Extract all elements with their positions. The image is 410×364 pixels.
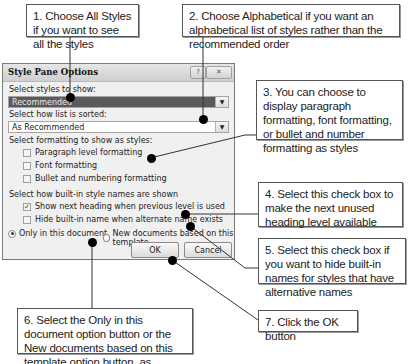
close-button[interactable]: ✕	[206, 66, 232, 79]
callout-5-marker	[186, 222, 195, 231]
checkbox-label: Paragraph level formatting	[35, 148, 142, 157]
callout-4-marker	[181, 210, 190, 219]
cancel-button[interactable]: Cancel	[184, 242, 232, 258]
checkbox-box[interactable]	[23, 149, 31, 157]
styles-to-show-value: Recommended	[12, 98, 72, 107]
checkmark-icon[interactable]: ✓	[23, 203, 31, 211]
checkbox-label: Show next heading when previous level is…	[35, 202, 225, 211]
callout-3-marker	[147, 154, 156, 163]
callout-3: 3. You can choose to display paragraph f…	[256, 80, 403, 140]
bullet-numbering-checkbox[interactable]: Bullet and numbering formatting	[23, 174, 167, 183]
checkbox-box[interactable]	[23, 175, 31, 183]
style-pane-options-dialog: Style Pane Options ? ✕ Select styles to …	[2, 63, 235, 260]
checkbox-label: Bullet and numbering formatting	[35, 174, 167, 183]
radio-label: Only in this document	[19, 229, 107, 238]
formatting-label: Select formatting to show as styles:	[9, 136, 152, 145]
callout-6-marker	[88, 238, 97, 247]
callout-7: 7. Click the OK button	[258, 310, 358, 332]
callout-6: 6. Select the Only in this document opti…	[17, 308, 193, 354]
radio-unselected-icon[interactable]	[103, 234, 110, 242]
callout-2: 2. Choose Alphabetical if you want an al…	[182, 4, 400, 37]
checkbox-box[interactable]	[23, 216, 31, 224]
help-icon: ?	[196, 68, 200, 76]
show-next-heading-checkbox[interactable]: ✓ Show next heading when previous level …	[23, 202, 225, 211]
callout-5: 5. Select this check box if you want to …	[258, 238, 406, 284]
paragraph-formatting-checkbox[interactable]: Paragraph level formatting	[23, 148, 142, 157]
callout-1-marker	[66, 93, 75, 102]
callout-2-marker	[199, 115, 208, 124]
checkbox-label: Hide built-in name when alternate name e…	[35, 215, 223, 224]
font-formatting-checkbox[interactable]: Font formatting	[23, 161, 97, 170]
help-button[interactable]: ?	[190, 66, 206, 79]
styles-to-show-dropdown[interactable]: Recommended ▼	[8, 96, 229, 108]
builtin-label: Select how built-in style names are show…	[9, 190, 178, 199]
chevron-down-icon[interactable]: ▼	[215, 122, 228, 132]
chevron-down-icon[interactable]: ▼	[215, 97, 228, 107]
radio-selected-icon[interactable]	[8, 230, 16, 238]
sort-dropdown[interactable]: As Recommended ▼	[8, 121, 229, 133]
sort-label: Select how list is sorted:	[9, 110, 107, 119]
dialog-title: Style Pane Options	[8, 67, 98, 77]
sort-value: As Recommended	[12, 123, 84, 132]
callout-1: 1. Choose All Styles if you want to see …	[26, 4, 139, 37]
only-in-this-document-radio[interactable]: Only in this document	[8, 229, 107, 238]
callout-4: 4. Select this check box to make the nex…	[258, 182, 403, 227]
checkbox-box[interactable]	[23, 162, 31, 170]
title-bar: Style Pane Options ? ✕	[3, 64, 234, 82]
checkbox-label: Font formatting	[35, 161, 97, 170]
styles-to-show-label: Select styles to show:	[9, 85, 96, 94]
callout-7-marker	[168, 256, 177, 265]
close-icon: ✕	[216, 68, 222, 76]
